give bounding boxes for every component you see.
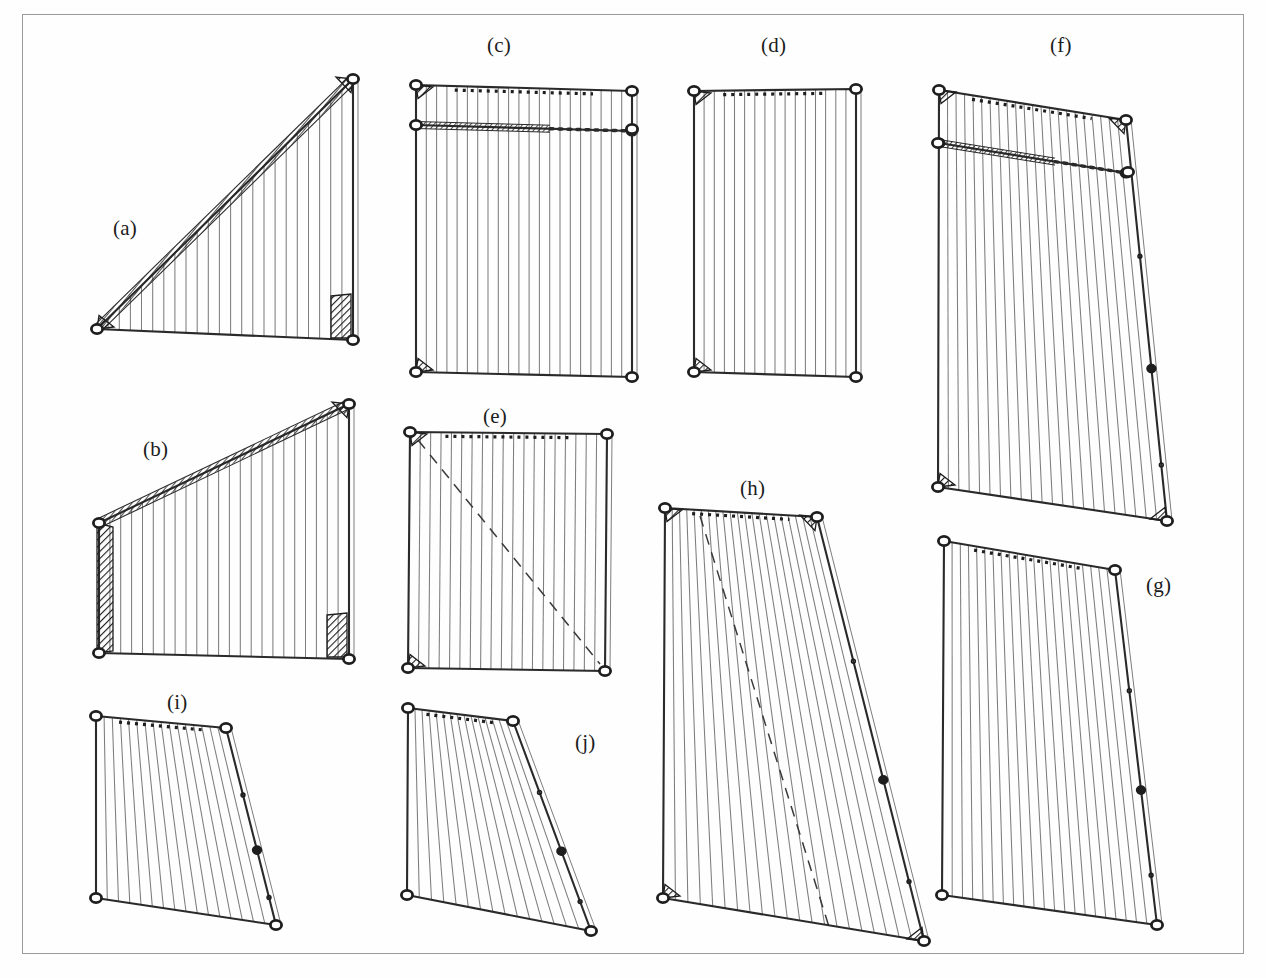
mesh-line [985, 548, 994, 902]
gusset-bottom-right-block [327, 613, 347, 657]
eyelet [1161, 516, 1172, 525]
top-dotted-rail [455, 90, 593, 94]
top-rope-edge [97, 400, 347, 519]
mesh-line [687, 509, 701, 904]
inner-rail-f [934, 139, 1131, 177]
eyelet [90, 893, 101, 902]
mesh-line [471, 716, 517, 917]
panel-label-g: (g) [1146, 573, 1171, 598]
panel-label-h: (h) [740, 476, 765, 501]
mesh-line [145, 721, 164, 909]
eyelet [93, 648, 104, 657]
mesh-line [1099, 567, 1137, 922]
mesh-line [450, 432, 452, 668]
panel-f [932, 85, 1172, 525]
top-rope-hatch [97, 79, 353, 329]
eyelet [932, 482, 943, 491]
mesh-line [1033, 105, 1053, 504]
mesh-line [977, 547, 983, 901]
edge-bead [1147, 365, 1156, 373]
mesh-line [457, 714, 493, 912]
mesh-line [532, 433, 534, 670]
diagonal-dashed-line [700, 516, 830, 930]
mesh-line [1084, 113, 1116, 513]
mesh-line [491, 433, 493, 670]
mesh-line [973, 96, 980, 494]
mesh-line [460, 433, 462, 669]
panel-h [657, 503, 929, 945]
mesh-line [1082, 565, 1116, 920]
mesh-line [1016, 102, 1032, 501]
mesh-line [680, 509, 688, 902]
eyelet [936, 890, 947, 899]
eyelet [850, 372, 861, 381]
mesh-line [429, 711, 444, 903]
mesh-line [218, 727, 265, 923]
mesh-line [752, 513, 812, 923]
mesh-line [810, 517, 912, 939]
top-rope-edge [101, 408, 351, 527]
top-rope-edge [100, 82, 356, 332]
top-dotted-rail [445, 436, 571, 437]
mesh-line [553, 434, 555, 671]
top-member-c [455, 90, 593, 94]
eyelet [688, 367, 699, 376]
eyelet [507, 716, 518, 725]
eyelet [626, 124, 637, 133]
eyelet [626, 372, 637, 381]
eyelet [850, 84, 861, 93]
figure-root: (a)(b)(c)(d)(e)(f)(g)(h)(i)(j) [0, 0, 1266, 978]
mesh-line [990, 98, 1001, 496]
mesh-line [470, 433, 472, 669]
mesh-line [104, 717, 107, 900]
mesh-group-h [672, 508, 911, 939]
gusset-bottom-right-block [331, 294, 351, 338]
mesh-line [429, 432, 431, 668]
top-dotted-rail [974, 550, 1083, 569]
mesh-line [512, 433, 514, 669]
mesh-line [960, 544, 962, 898]
mesh-line [436, 712, 456, 905]
eyelet [599, 666, 610, 675]
mesh-line [595, 434, 597, 671]
top-rope-hatch [99, 404, 349, 523]
eyelet [401, 890, 412, 899]
inner-rail-rope [416, 125, 550, 129]
edge-double-line [822, 516, 929, 940]
eyelet [657, 893, 668, 902]
eyelet [1109, 565, 1120, 574]
top-member-b [97, 400, 351, 527]
mesh-line [485, 718, 542, 922]
eyelet [343, 654, 354, 663]
eyelet [410, 367, 421, 376]
panel-label-f: (f) [1050, 33, 1072, 58]
panel-label-d: (d) [761, 33, 786, 58]
panel-g [936, 536, 1162, 929]
mesh-line [584, 434, 586, 671]
mesh-line [968, 545, 972, 899]
eyelet [585, 926, 596, 935]
mesh-line [506, 720, 579, 929]
panel-d [688, 84, 861, 381]
edge-bead [557, 847, 566, 855]
mesh-line [464, 715, 505, 914]
top-rope-edge [94, 76, 350, 326]
mesh-line [185, 724, 219, 916]
mesh-line [672, 508, 675, 900]
edge-bead [253, 846, 262, 854]
panel-c [410, 80, 637, 381]
mesh-line [1074, 563, 1106, 918]
mesh-line [723, 511, 763, 914]
mesh-line [522, 433, 524, 670]
mesh-line [422, 710, 432, 900]
panel-label-b: (b) [143, 437, 168, 462]
eyelet [410, 80, 421, 89]
top-member-g [974, 550, 1083, 569]
eyelet [601, 429, 612, 438]
mesh-line [120, 718, 129, 903]
mesh-line [564, 434, 566, 671]
top-member-a [94, 76, 356, 332]
eyelet [1120, 115, 1131, 124]
mesh-line [439, 432, 441, 668]
panel-i [90, 711, 281, 929]
